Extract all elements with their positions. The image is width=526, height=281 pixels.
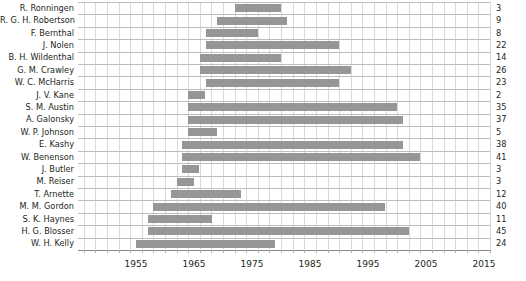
category-label: M. M. Gordon: [0, 202, 74, 211]
x-axis-tick-minor: [304, 250, 305, 253]
value-label: 22: [496, 41, 520, 50]
x-axis-tick-minor: [281, 250, 282, 253]
gantt-bar: [188, 116, 403, 124]
x-axis-tick-minor: [107, 250, 108, 253]
value-label: 11: [496, 215, 520, 224]
x-axis-tick-minor: [397, 250, 398, 253]
x-axis-tick-minor: [95, 250, 96, 253]
gridline-horizontal: [78, 200, 490, 201]
value-label: 3: [496, 177, 520, 186]
gantt-bar: [182, 141, 403, 149]
gridline-horizontal: [78, 126, 490, 127]
x-axis-tick-minor: [455, 250, 456, 253]
gantt-bar: [148, 227, 409, 235]
category-label: J. V. Kane: [0, 91, 74, 100]
value-label: 38: [496, 140, 520, 149]
gantt-bar: [235, 4, 281, 12]
category-label: J. Butler: [0, 165, 74, 174]
category-label: W. H. Kelly: [0, 239, 74, 248]
x-axis-tick-minor: [339, 250, 340, 253]
category-label: F. Bernthal: [0, 29, 74, 38]
gantt-bar: [182, 153, 420, 161]
gantt-bar: [200, 66, 351, 74]
gridline-horizontal: [78, 176, 490, 177]
x-axis-tick-minor: [119, 250, 120, 253]
x-axis-tick-minor: [142, 250, 143, 253]
value-label: 3: [496, 4, 520, 13]
x-axis-tick-minor: [293, 250, 294, 253]
value-label: 26: [496, 66, 520, 75]
gridline-minor-vertical: [490, 2, 491, 250]
category-label: J. Nolen: [0, 41, 74, 50]
x-axis-tick-minor: [258, 250, 259, 253]
gantt-bar: [206, 79, 339, 87]
gridline-horizontal: [78, 225, 490, 226]
value-label: 45: [496, 227, 520, 236]
x-axis-tick-minor: [386, 250, 387, 253]
gridline-horizontal: [78, 76, 490, 77]
value-label: 37: [496, 115, 520, 124]
x-axis-tick-minor: [269, 250, 270, 253]
gridline-horizontal: [78, 52, 490, 53]
category-label: R. Ronningen: [0, 4, 74, 13]
gantt-bar: [188, 91, 205, 99]
x-axis-tick-minor: [246, 250, 247, 253]
x-axis-tick-label: 2005: [415, 259, 438, 269]
x-axis-tick-minor: [200, 250, 201, 253]
x-axis-tick-minor: [432, 250, 433, 253]
category-label: W. C. McHarris: [0, 78, 74, 87]
category-label: R. G. H. Robertson: [0, 16, 74, 25]
gridline-horizontal: [78, 114, 490, 115]
gantt-bar: [188, 103, 397, 111]
x-axis-tick-minor: [444, 250, 445, 253]
x-axis-tick-minor: [409, 250, 410, 253]
gridline-horizontal: [78, 89, 490, 90]
value-label: 35: [496, 103, 520, 112]
gantt-bar: [148, 215, 212, 223]
value-label: 41: [496, 153, 520, 162]
plot-area: [78, 2, 490, 250]
gantt-bar: [217, 17, 287, 25]
x-axis-tick-label: 1975: [241, 259, 264, 269]
x-axis-tick-minor: [153, 250, 154, 253]
gridline-horizontal: [78, 27, 490, 28]
x-axis-tick-minor: [316, 250, 317, 253]
gridline-horizontal: [78, 64, 490, 65]
x-axis-tick-minor: [211, 250, 212, 253]
x-axis-tick-minor: [420, 250, 421, 253]
gantt-bar: [171, 190, 241, 198]
category-label: E. Kashy: [0, 140, 74, 149]
x-axis-tick-minor: [478, 250, 479, 253]
value-label: 40: [496, 202, 520, 211]
x-axis-tick-minor: [84, 250, 85, 253]
x-axis-tick-minor: [490, 250, 491, 253]
category-label: M. Reiser: [0, 177, 74, 186]
x-axis-tick-minor: [223, 250, 224, 253]
x-axis-tick-label: 1965: [183, 259, 206, 269]
category-label: A. Galonsky: [0, 115, 74, 124]
category-label-column: R. RonningenR. G. H. RobertsonF. Berntha…: [0, 0, 74, 252]
x-axis-tick-minor: [374, 250, 375, 253]
value-label: 9: [496, 16, 520, 25]
x-axis-tick-minor: [351, 250, 352, 253]
x-axis-tick-minor: [188, 250, 189, 253]
value-label-column: 398221426232353753841331240114524: [496, 0, 526, 252]
gridline-horizontal: [78, 163, 490, 164]
gridline-horizontal: [78, 2, 490, 3]
gantt-bar: [182, 165, 199, 173]
x-axis-tick-minor: [467, 250, 468, 253]
gridline-horizontal: [78, 188, 490, 189]
value-label: 2: [496, 91, 520, 100]
x-axis-tick-minor: [177, 250, 178, 253]
category-label: T. Arnette: [0, 190, 74, 199]
x-axis-tick-minor: [362, 250, 363, 253]
category-label: S. K. Haynes: [0, 215, 74, 224]
category-label: S. M. Austin: [0, 103, 74, 112]
category-label: W. Benenson: [0, 153, 74, 162]
category-label: B. H. Wildenthal: [0, 53, 74, 62]
gantt-bar: [153, 203, 385, 211]
gridline-horizontal: [78, 39, 490, 40]
gantt-chart: R. RonningenR. G. H. RobertsonF. Berntha…: [0, 0, 526, 281]
gridline-horizontal: [78, 14, 490, 15]
x-axis-tick-minor: [235, 250, 236, 253]
